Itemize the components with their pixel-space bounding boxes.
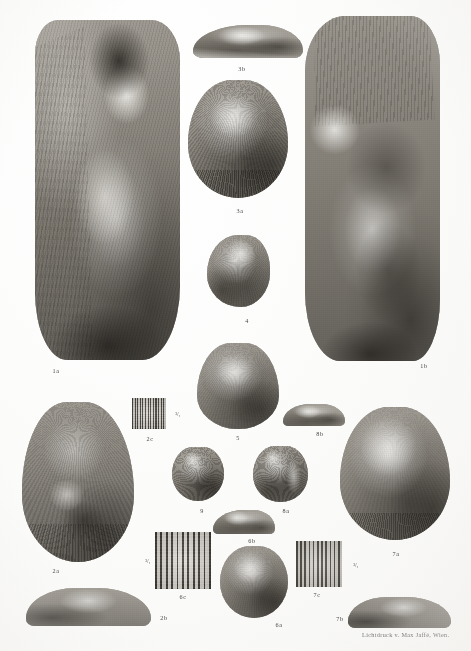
figure-1a-specimen [35, 20, 180, 360]
figure-5-specimen [197, 343, 279, 429]
figure-label-7c: 7c [313, 592, 320, 598]
figure-2c-ornament-swatch [132, 398, 166, 429]
figure-2b-specimen [26, 588, 151, 626]
figure-3b-specimen [193, 25, 303, 58]
figure-7c-ornament-swatch [296, 541, 342, 587]
figure-label-8b: 8b [316, 431, 323, 437]
figure-6a-specimen [220, 546, 288, 618]
figure-9-specimen [172, 447, 224, 501]
figure-label-4: 4 [245, 318, 249, 324]
figure-label-1a: 1a [52, 368, 59, 374]
figure-label-3b: 3b [238, 66, 245, 72]
figure-label-6a: 6a [275, 622, 282, 628]
figure-label-9: 9 [200, 508, 204, 514]
scale-fraction-7c: ³/₁ [353, 562, 359, 568]
figure-label-7b: 7b [336, 616, 343, 622]
figure-8b-specimen [283, 404, 345, 426]
scale-fraction-6c: ³/₁ [145, 558, 151, 564]
figure-label-2a: 2a [52, 568, 59, 574]
figure-8a-specimen [253, 446, 308, 502]
scale-fraction-2c: ³/₁ [175, 411, 181, 417]
figure-2a-specimen [22, 402, 134, 562]
figure-4-specimen [207, 235, 270, 307]
figure-7b-specimen [348, 597, 451, 628]
figure-6b-specimen [213, 510, 275, 534]
figure-6c-ornament-swatch [155, 532, 211, 589]
figure-3a-specimen [188, 80, 288, 198]
figure-label-6b: 6b [248, 538, 255, 544]
figure-label-3a: 3a [236, 208, 243, 214]
figure-label-7a: 7a [392, 551, 399, 557]
figure-label-6c: 6c [179, 594, 186, 600]
figure-label-2c: 2c [146, 436, 153, 442]
figure-label-5: 5 [236, 435, 240, 441]
figure-label-2b: 2b [160, 615, 167, 621]
figure-label-8a: 8a [282, 508, 289, 514]
figure-1b-specimen [305, 16, 440, 361]
figure-7a-specimen [340, 407, 450, 540]
printer-credit: Lichtdruck v. Max Jaffé, Wien. [362, 631, 449, 638]
fossil-plate: 1a 1b 3b 3a [0, 0, 471, 651]
figure-label-1b: 1b [420, 363, 427, 369]
